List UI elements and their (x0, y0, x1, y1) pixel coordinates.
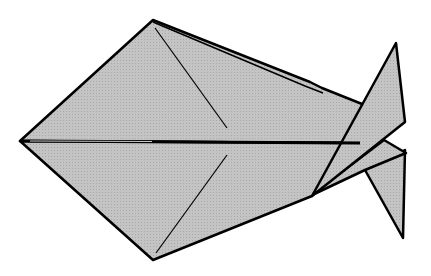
fish-illustration (0, 0, 431, 276)
center-crease-highlight (30, 141, 152, 142)
origami-fish-diagram: origami fish (0, 0, 431, 276)
body-upper-half (20, 20, 385, 143)
body-lower-half (20, 141, 360, 260)
